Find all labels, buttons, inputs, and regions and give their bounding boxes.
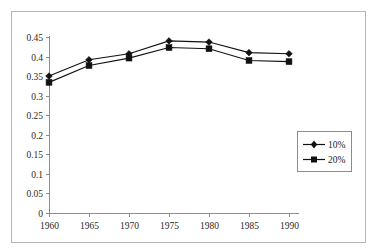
data-point-marker <box>206 46 212 52</box>
data-point-marker <box>286 59 292 65</box>
y-axis <box>46 36 50 214</box>
x-axis <box>50 214 300 218</box>
y-tick-labels: 00.050.10.150.20.250.30.350.40.45 <box>26 33 43 219</box>
data-point-marker <box>46 79 52 85</box>
chart-plot-area: 00.050.10.150.20.250.30.350.40.45 196019… <box>0 0 379 252</box>
data-point-marker <box>166 45 172 51</box>
data-point-marker <box>246 58 252 64</box>
x-tick-labels: 1960196519701975198019851990 <box>40 221 299 231</box>
data-point-marker <box>166 38 173 45</box>
data-series-group <box>46 38 293 86</box>
data-point-marker <box>46 73 53 80</box>
legend-label-10: 10% <box>328 140 345 150</box>
x-tick-label: 1960 <box>40 221 59 231</box>
data-point-marker <box>126 55 132 61</box>
chart-legend[interactable]: 10% 20% <box>297 131 352 172</box>
diamond-marker-icon <box>302 139 326 150</box>
y-tick-label: 0 <box>38 209 43 219</box>
legend-entry-10[interactable]: 10% <box>302 138 345 151</box>
y-tick-label: 0.25 <box>26 111 43 121</box>
x-tick-label: 1985 <box>240 221 259 231</box>
data-point-marker <box>86 63 92 69</box>
data-point-marker <box>246 49 253 56</box>
legend-entry-20[interactable]: 20% <box>302 153 345 166</box>
legend-label-20: 20% <box>328 155 345 165</box>
y-tick-label: 0.05 <box>26 189 43 199</box>
y-tick-label: 0.35 <box>26 72 43 82</box>
square-marker-icon <box>302 154 326 165</box>
data-point-marker <box>286 51 293 58</box>
y-tick-label: 0.45 <box>26 33 43 43</box>
x-tick-label: 1990 <box>280 221 299 231</box>
x-tick-label: 1975 <box>160 221 179 231</box>
x-tick-label: 1970 <box>120 221 139 231</box>
y-tick-label: 0.15 <box>26 150 43 160</box>
y-tick-label: 0.4 <box>31 53 43 63</box>
x-tick-label: 1980 <box>200 221 219 231</box>
y-tick-label: 0.1 <box>31 170 43 180</box>
data-point-marker <box>86 56 93 63</box>
y-tick-label: 0.2 <box>31 131 43 141</box>
y-tick-label: 0.3 <box>31 92 43 102</box>
x-tick-label: 1965 <box>80 221 99 231</box>
chart-svg: 00.050.10.150.20.250.30.350.40.45 196019… <box>0 0 379 252</box>
data-point-marker <box>206 39 213 46</box>
